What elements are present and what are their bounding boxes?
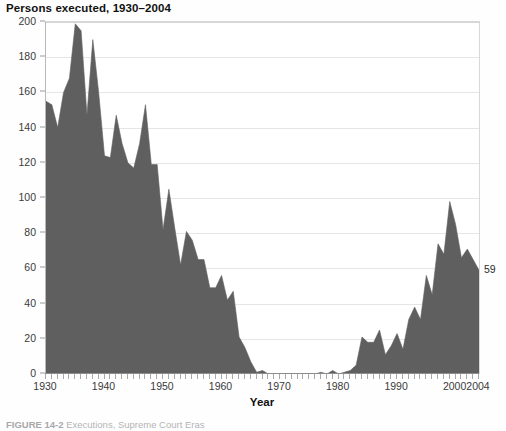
y-tick-mark-80: [40, 232, 45, 233]
x-tick-minor-1992: [408, 374, 409, 379]
x-tick-minor-1951: [168, 374, 169, 379]
y-axis: 020406080100120140160180200: [0, 0, 45, 400]
x-tick-minor-1932: [57, 374, 58, 379]
x-tick-minor-1940: [104, 374, 105, 379]
y-tick-label-80: 80: [24, 226, 36, 238]
x-tick-minor-1950: [162, 374, 163, 379]
x-tick-minor-1974: [302, 374, 303, 379]
plot-area: [45, 21, 480, 374]
x-tick-minor-1990: [396, 374, 397, 379]
y-tick-mark-160: [40, 91, 45, 92]
x-tick-minor-1966: [256, 374, 257, 379]
x-tick-minor-1991: [402, 374, 403, 379]
x-tick-minor-1982: [349, 374, 350, 379]
x-tick-minor-1938: [92, 374, 93, 379]
x-tick-minor-1958: [209, 374, 210, 379]
area-path: [46, 24, 479, 374]
x-tick-minor-2001: [460, 374, 461, 379]
x-tick-minor-1995: [425, 374, 426, 379]
x-tick-minor-1970: [279, 374, 280, 379]
x-tick-minor-1994: [419, 374, 420, 379]
x-tick-minor-1971: [285, 374, 286, 379]
x-tick-minor-1980: [338, 374, 339, 379]
x-tick-minor-1953: [180, 374, 181, 379]
y-tick-label-120: 120: [18, 156, 36, 168]
x-tick-minor-1972: [291, 374, 292, 379]
x-tick-minor-1947: [144, 374, 145, 379]
end-value-annotation: 59: [484, 263, 496, 275]
x-tick-minor-1949: [156, 374, 157, 379]
x-tick-minor-1934: [68, 374, 69, 379]
y-tick-label-200: 200: [18, 15, 36, 27]
x-tick-label-1970: 1970: [267, 380, 290, 392]
x-tick-minor-1987: [379, 374, 380, 379]
x-tick-minor-1957: [203, 374, 204, 379]
figure-caption-text: Executions, Supreme Court Eras: [66, 419, 204, 430]
x-tick-minor-2003: [472, 374, 473, 379]
y-tick-mark-140: [40, 126, 45, 127]
x-axis-title: Year: [45, 396, 479, 408]
x-tick-minor-1996: [431, 374, 432, 379]
x-tick-minor-1981: [343, 374, 344, 379]
y-tick-label-140: 140: [18, 121, 36, 133]
x-tick-minor-1959: [215, 374, 216, 379]
x-tick-minor-1988: [384, 374, 385, 379]
x-tick-minor-1989: [390, 374, 391, 379]
x-tick-minor-1936: [80, 374, 81, 379]
y-tick-mark-60: [40, 267, 45, 268]
x-tick-minor-1942: [115, 374, 116, 379]
x-tick-minor-1956: [197, 374, 198, 379]
x-tick-minor-1986: [373, 374, 374, 379]
x-tick-minor-1975: [308, 374, 309, 379]
x-tick-minor-1962: [232, 374, 233, 379]
figure-caption: FIGURE 14-2 Executions, Supreme Court Er…: [6, 419, 205, 431]
x-tick-minor-2004: [478, 374, 479, 379]
x-tick-minor-1968: [267, 374, 268, 379]
x-tick-minor-1997: [437, 374, 438, 379]
x-tick-minor-1984: [361, 374, 362, 379]
x-tick-minor-1952: [174, 374, 175, 379]
x-tick-minor-1985: [367, 374, 368, 379]
x-tick-minor-1937: [86, 374, 87, 379]
y-tick-label-40: 40: [24, 297, 36, 309]
x-tick-minor-1954: [185, 374, 186, 379]
y-tick-mark-200: [40, 21, 45, 22]
x-tick-minor-1976: [314, 374, 315, 379]
x-tick-minor-1943: [121, 374, 122, 379]
x-tick-minor-1939: [98, 374, 99, 379]
x-tick-minor-1960: [221, 374, 222, 379]
x-tick-label-1960: 1960: [209, 380, 232, 392]
y-tick-mark-40: [40, 302, 45, 303]
figure-caption-number: FIGURE 14-2: [6, 419, 64, 430]
y-tick-label-160: 160: [18, 85, 36, 97]
x-tick-minor-1964: [244, 374, 245, 379]
x-tick-minor-1967: [262, 374, 263, 379]
x-tick-minor-1965: [250, 374, 251, 379]
x-tick-minor-1998: [443, 374, 444, 379]
x-tick-minor-1999: [449, 374, 450, 379]
x-tick-label-2000: 2000: [443, 380, 466, 392]
x-tick-minor-1948: [150, 374, 151, 379]
y-tick-label-60: 60: [24, 261, 36, 273]
area-series: [46, 22, 479, 374]
y-tick-label-180: 180: [18, 50, 36, 62]
x-tick-minor-2002: [466, 374, 467, 379]
x-tick-minor-1933: [63, 374, 64, 379]
x-tick-label-1940: 1940: [92, 380, 115, 392]
x-tick-minor-1944: [127, 374, 128, 379]
x-tick-label-1980: 1980: [326, 380, 349, 392]
x-tick-minor-2000: [455, 374, 456, 379]
x-tick-label-2004: 2004: [466, 380, 489, 392]
x-tick-minor-1941: [109, 374, 110, 379]
x-tick-minor-1977: [320, 374, 321, 379]
x-tick-minor-1973: [297, 374, 298, 379]
x-tick-minor-1931: [51, 374, 52, 379]
y-tick-mark-20: [40, 337, 45, 338]
y-tick-label-20: 20: [24, 332, 36, 344]
x-tick-minor-1969: [273, 374, 274, 379]
x-tick-minor-1930: [45, 374, 46, 379]
x-tick-label-1930: 1930: [33, 380, 56, 392]
x-tick-minor-1979: [332, 374, 333, 379]
x-tick-minor-1945: [133, 374, 134, 379]
x-tick-label-1950: 1950: [150, 380, 173, 392]
